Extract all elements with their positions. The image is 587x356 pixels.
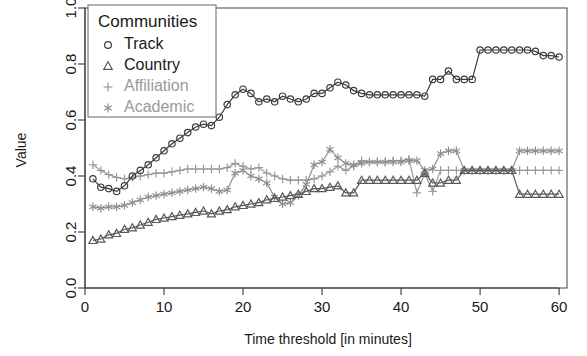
plus-marker-icon [105, 170, 113, 178]
plus-marker-icon [97, 166, 105, 174]
x-axis-tick-label: 60 [551, 298, 568, 315]
series-academic [89, 145, 562, 212]
x-axis-tick-label: 50 [472, 298, 489, 315]
plus-marker-icon [207, 165, 215, 173]
plus-marker-icon [160, 169, 168, 177]
plus-marker-icon [515, 166, 523, 174]
x-axis-tick-label: 30 [314, 298, 331, 315]
legend-title: Communities [98, 12, 197, 31]
chart-legend: CommunitiesTrackCountryAffiliationAcadem… [88, 5, 216, 117]
x-axis-tick-label: 40 [393, 298, 410, 315]
series-line-academic [93, 149, 559, 208]
x-axis-tick-label: 0 [81, 298, 89, 315]
plus-marker-icon [444, 166, 452, 174]
y-axis-tick-label: 0.0 [62, 278, 79, 299]
plus-marker-icon [452, 166, 460, 174]
legend-item-label: Affiliation [124, 77, 189, 94]
asterisk-marker-icon [311, 161, 318, 169]
x-axis-tick-label: 20 [235, 298, 252, 315]
y-axis-tick-label: 0.2 [62, 222, 79, 243]
y-axis-title: Value [13, 132, 29, 167]
asterisk-marker-icon [247, 172, 254, 180]
plus-marker-icon [270, 172, 278, 180]
asterisk-marker-icon [263, 179, 270, 187]
plus-marker-icon [144, 170, 152, 178]
x-axis-title: Time threshold [in minutes] [244, 331, 412, 347]
asterisk-marker-icon [437, 149, 444, 157]
y-axis-tick-label: 0.4 [62, 166, 79, 187]
plus-marker-icon [286, 176, 294, 184]
plus-marker-icon [231, 159, 239, 167]
legend-item-label: Track [124, 35, 164, 52]
plus-marker-icon [184, 165, 192, 173]
plus-marker-icon [191, 165, 199, 173]
legend-item-label: Academic [124, 98, 194, 115]
plus-marker-icon [326, 168, 334, 176]
asterisk-marker-icon [129, 198, 136, 206]
plus-marker-icon [547, 166, 555, 174]
plus-marker-icon [413, 189, 421, 197]
plus-marker-icon [223, 163, 231, 171]
y-axis-tick-label: 1.0 [62, 0, 79, 18]
plus-marker-icon [436, 166, 444, 174]
plus-marker-icon [539, 166, 547, 174]
plus-marker-icon [278, 175, 286, 183]
plus-marker-icon [152, 169, 160, 177]
plus-marker-icon [168, 168, 176, 176]
plus-marker-icon [523, 166, 531, 174]
y-axis-tick-label: 0.6 [62, 110, 79, 131]
series-markers-country [89, 166, 563, 243]
asterisk-marker-icon [137, 196, 144, 204]
plus-marker-icon [428, 187, 436, 195]
plus-marker-icon [294, 176, 302, 184]
plus-marker-icon [310, 175, 318, 183]
plus-marker-icon [531, 166, 539, 174]
line-chart: 0.00.20.40.60.81.00102030405060 Communit… [0, 0, 587, 356]
series-line-country [93, 170, 559, 240]
asterisk-marker-icon [231, 169, 238, 177]
chart-container: 0.00.20.40.60.81.00102030405060 Communit… [0, 0, 587, 356]
plus-marker-icon [255, 163, 263, 171]
plus-marker-icon [199, 165, 207, 173]
plus-marker-icon [555, 166, 563, 174]
series-country [89, 166, 563, 243]
x-axis-tick-label: 10 [156, 298, 173, 315]
plus-marker-icon [215, 165, 223, 173]
asterisk-marker-icon [255, 175, 262, 183]
plus-marker-icon [89, 161, 97, 169]
plus-marker-icon [176, 166, 184, 174]
plus-marker-icon [263, 169, 271, 177]
plus-marker-icon [334, 162, 342, 170]
plus-marker-icon [318, 172, 326, 180]
y-axis-tick-label: 0.8 [62, 54, 79, 75]
legend-item-label: Country [124, 56, 180, 73]
plus-marker-icon [112, 173, 120, 181]
